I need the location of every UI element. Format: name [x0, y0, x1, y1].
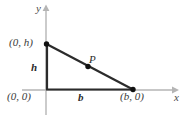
label-y-axis: y	[36, 3, 41, 14]
vertex-dot-top	[44, 41, 49, 46]
label-point-p: P	[89, 54, 96, 65]
label-x-axis: x	[174, 92, 179, 103]
label-vertex-right: (b, 0)	[120, 91, 144, 102]
label-leg-vertical: h	[31, 62, 37, 73]
geometry-figure: (0, h) (0, 0) (b, 0) h b P x y	[0, 0, 190, 122]
label-leg-horizontal: b	[78, 92, 84, 103]
label-vertex-origin: (0, 0)	[7, 91, 31, 102]
y-axis-arrowhead	[43, 5, 50, 12]
label-vertex-top: (0, h)	[9, 37, 33, 48]
